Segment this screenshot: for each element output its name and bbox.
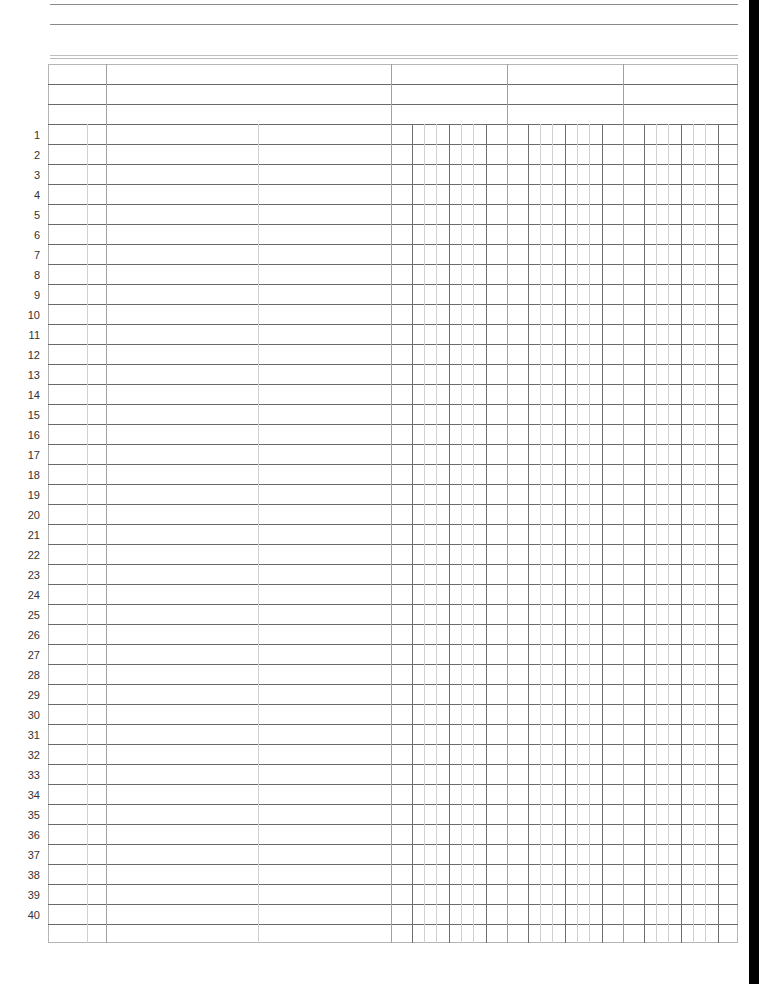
ledger-cell[interactable] xyxy=(259,825,391,844)
ledger-cell[interactable] xyxy=(508,305,623,324)
ledger-cell[interactable] xyxy=(49,605,87,624)
ledger-cell[interactable] xyxy=(624,505,738,524)
ledger-cell[interactable] xyxy=(88,665,106,684)
ledger-cell[interactable] xyxy=(259,545,391,564)
ledger-cell[interactable] xyxy=(508,125,623,144)
ledger-cell[interactable] xyxy=(624,885,738,904)
ledger-cell[interactable] xyxy=(259,585,391,604)
ledger-cell[interactable] xyxy=(88,385,106,404)
ledger-cell[interactable] xyxy=(107,605,258,624)
ledger-cell[interactable] xyxy=(259,285,391,304)
ledger-cell[interactable] xyxy=(259,245,391,264)
ledger-cell[interactable] xyxy=(88,285,106,304)
ledger-cell[interactable] xyxy=(508,345,623,364)
ledger-cell[interactable] xyxy=(107,505,258,524)
ledger-cell[interactable] xyxy=(88,485,106,504)
ledger-cell[interactable] xyxy=(624,605,738,624)
ledger-cell[interactable] xyxy=(624,785,738,804)
ledger-cell[interactable] xyxy=(508,265,623,284)
ledger-cell[interactable] xyxy=(259,765,391,784)
ledger-cell[interactable] xyxy=(624,805,738,824)
ledger-cell[interactable] xyxy=(624,705,738,724)
ledger-cell[interactable] xyxy=(49,405,87,424)
ledger-cell[interactable] xyxy=(508,285,623,304)
ledger-cell[interactable] xyxy=(88,785,106,804)
ledger-cell[interactable] xyxy=(88,445,106,464)
ledger-cell[interactable] xyxy=(49,385,87,404)
ledger-cell[interactable] xyxy=(508,505,623,524)
ledger-cell[interactable] xyxy=(259,565,391,584)
ledger-cell[interactable] xyxy=(624,625,738,644)
ledger-cell[interactable] xyxy=(392,865,507,884)
ledger-cell[interactable] xyxy=(107,645,258,664)
ledger-cell[interactable] xyxy=(508,205,623,224)
ledger-cell[interactable] xyxy=(624,225,738,244)
ledger-cell[interactable] xyxy=(508,745,623,764)
ledger-cell[interactable] xyxy=(259,425,391,444)
ledger-cell[interactable] xyxy=(624,485,738,504)
ledger-cell[interactable] xyxy=(88,705,106,724)
ledger-cell[interactable] xyxy=(624,745,738,764)
ledger-cell[interactable] xyxy=(107,585,258,604)
ledger-cell[interactable] xyxy=(88,145,106,164)
ledger-cell[interactable] xyxy=(259,845,391,864)
ledger-cell[interactable] xyxy=(259,325,391,344)
ledger-cell[interactable] xyxy=(508,165,623,184)
ledger-cell[interactable] xyxy=(259,665,391,684)
ledger-cell[interactable] xyxy=(88,225,106,244)
ledger-cell[interactable] xyxy=(107,225,258,244)
ledger-cell[interactable] xyxy=(624,385,738,404)
ledger-cell[interactable] xyxy=(508,405,623,424)
ledger-cell[interactable] xyxy=(508,725,623,744)
ledger-cell[interactable] xyxy=(49,725,87,744)
ledger-cell[interactable] xyxy=(49,225,87,244)
ledger-cell[interactable] xyxy=(107,865,258,884)
ledger-cell[interactable] xyxy=(392,545,507,564)
ledger-cell[interactable] xyxy=(508,145,623,164)
ledger-cell[interactable] xyxy=(259,205,391,224)
ledger-cell[interactable] xyxy=(392,425,507,444)
ledger-cell[interactable] xyxy=(508,905,623,924)
ledger-cell[interactable] xyxy=(392,265,507,284)
ledger-cell[interactable] xyxy=(88,205,106,224)
ledger-cell[interactable] xyxy=(259,525,391,544)
ledger-cell[interactable] xyxy=(259,925,391,944)
ledger-cell[interactable] xyxy=(49,145,87,164)
ledger-cell[interactable] xyxy=(107,825,258,844)
ledger-cell[interactable] xyxy=(624,245,738,264)
ledger-cell[interactable] xyxy=(624,305,738,324)
ledger-cell[interactable] xyxy=(88,605,106,624)
ledger-cell[interactable] xyxy=(392,365,507,384)
ledger-cell[interactable] xyxy=(392,205,507,224)
ledger-cell[interactable] xyxy=(392,605,507,624)
ledger-cell[interactable] xyxy=(624,445,738,464)
ledger-cell[interactable] xyxy=(259,865,391,884)
ledger-cell[interactable] xyxy=(259,145,391,164)
ledger-cell[interactable] xyxy=(107,685,258,704)
ledger-cell[interactable] xyxy=(392,665,507,684)
ledger-cell[interactable] xyxy=(88,805,106,824)
ledger-cell[interactable] xyxy=(392,185,507,204)
ledger-cell[interactable] xyxy=(259,785,391,804)
ledger-cell[interactable] xyxy=(508,485,623,504)
ledger-cell[interactable] xyxy=(49,645,87,664)
ledger-cell[interactable] xyxy=(508,805,623,824)
ledger-cell[interactable] xyxy=(49,425,87,444)
ledger-cell[interactable] xyxy=(624,185,738,204)
ledger-cell[interactable] xyxy=(107,265,258,284)
ledger-cell[interactable] xyxy=(624,125,738,144)
ledger-cell[interactable] xyxy=(49,885,87,904)
ledger-cell[interactable] xyxy=(624,685,738,704)
ledger-cell[interactable] xyxy=(624,905,738,924)
ledger-cell[interactable] xyxy=(49,465,87,484)
ledger-cell[interactable] xyxy=(88,505,106,524)
ledger-cell[interactable] xyxy=(259,125,391,144)
ledger-cell[interactable] xyxy=(508,525,623,544)
ledger-cell[interactable] xyxy=(88,165,106,184)
ledger-cell[interactable] xyxy=(88,825,106,844)
ledger-cell[interactable] xyxy=(508,585,623,604)
ledger-cell[interactable] xyxy=(392,885,507,904)
ledger-cell[interactable] xyxy=(49,745,87,764)
ledger-cell[interactable] xyxy=(508,365,623,384)
ledger-cell[interactable] xyxy=(392,285,507,304)
